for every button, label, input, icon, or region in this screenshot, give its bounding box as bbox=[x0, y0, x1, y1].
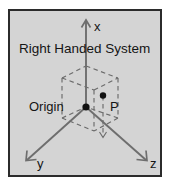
origin-label: Origin bbox=[29, 99, 64, 114]
projection-arrow-dashed bbox=[100, 132, 107, 138]
point-p-label: P bbox=[110, 99, 119, 114]
top-face-edge-front-left bbox=[62, 78, 94, 90]
top-face-edge-front-right bbox=[94, 78, 118, 90]
z-axis-line bbox=[86, 107, 146, 160]
figure-root: x y z Right Handed System Origin P bbox=[0, 0, 170, 185]
y-axis-label: y bbox=[37, 156, 44, 171]
point-p-dot bbox=[100, 92, 106, 98]
coordinate-system-diagram: x y z Right Handed System Origin P bbox=[0, 0, 170, 185]
top-face-edge-left bbox=[62, 66, 86, 78]
bottom-face-edge-left-back bbox=[62, 107, 86, 118]
projection-arrowhead bbox=[100, 132, 107, 138]
x-axis-label: x bbox=[94, 19, 101, 34]
y-axis-line bbox=[27, 107, 86, 160]
origin-dot bbox=[82, 103, 89, 110]
top-face-edge-right bbox=[86, 66, 118, 78]
caption-right-handed-system: Right Handed System bbox=[19, 41, 150, 56]
z-axis-label: z bbox=[150, 156, 157, 171]
